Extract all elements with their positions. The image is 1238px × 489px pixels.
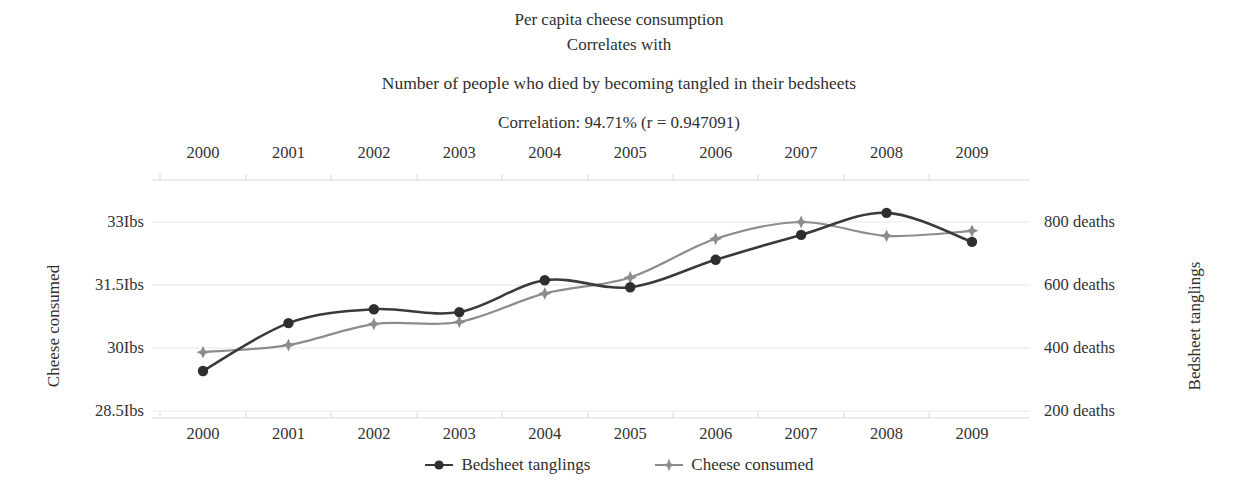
data-point[interactable] (454, 307, 464, 317)
y-tick-label-right: 800 deaths (1044, 212, 1115, 232)
data-point[interactable] (624, 271, 637, 284)
legend-item-bedsheet-tanglings[interactable]: Bedsheet tanglings (424, 455, 590, 475)
legend-label-bedsheet-tanglings: Bedsheet tanglings (461, 455, 590, 475)
y-axis-left-title: Cheese consumed (44, 236, 64, 416)
legend-label-cheese-consumed: Cheese consumed (691, 455, 813, 475)
data-point[interactable] (283, 318, 293, 328)
chart-legend: Bedsheet tanglings Cheese consumed (0, 455, 1238, 475)
x-axis-bottom-labels: 2000200120022003200420052006200720082009 (152, 424, 1030, 446)
x-tick-label: 2002 (357, 143, 390, 163)
series-line-bedsheet-tanglings (203, 213, 972, 371)
data-point[interactable] (795, 216, 808, 229)
data-point[interactable] (709, 232, 722, 245)
data-point[interactable] (538, 287, 551, 300)
y-tick-label-left: 28.5Ibs (95, 401, 144, 421)
x-tick-label: 2009 (956, 143, 989, 163)
y-tick-label-left: 33Ibs (107, 212, 144, 232)
x-tick-label: 2006 (699, 143, 732, 163)
x-tick-label: 2005 (614, 424, 647, 444)
y-tick-label-right: 600 deaths (1044, 275, 1115, 295)
filled-circle-icon (424, 457, 454, 473)
data-point[interactable] (881, 208, 891, 218)
x-tick-label: 2002 (357, 424, 390, 444)
data-point[interactable] (453, 316, 466, 329)
data-point[interactable] (966, 224, 979, 237)
x-tick-label: 2009 (956, 424, 989, 444)
series-lines (203, 213, 972, 371)
x-tick-label: 2006 (699, 424, 732, 444)
data-point[interactable] (880, 229, 893, 242)
y-axis-right-title: Bedsheet tanglings (1185, 226, 1205, 426)
y-tick-label-right: 200 deaths (1044, 401, 1115, 421)
gridlines (152, 222, 1030, 411)
x-tick-label: 2003 (443, 424, 476, 444)
legend-item-cheese-consumed[interactable]: Cheese consumed (654, 455, 813, 475)
plot-area: 2000200120022003200420052006200720082009… (0, 0, 1238, 489)
four-point-star-icon (654, 457, 684, 473)
x-axis-top-labels: 2000200120022003200420052006200720082009 (152, 143, 1030, 165)
data-point[interactable] (796, 230, 806, 240)
y-tick-label-left: 31.5Ibs (95, 275, 144, 295)
data-point[interactable] (369, 304, 379, 314)
data-point[interactable] (198, 366, 208, 376)
data-point[interactable] (967, 237, 977, 247)
top-axis-line (152, 174, 1030, 180)
x-tick-label: 2008 (870, 424, 903, 444)
data-point[interactable] (710, 255, 720, 265)
data-point[interactable] (540, 275, 550, 285)
x-tick-label: 2007 (785, 424, 818, 444)
y-tick-label-right: 400 deaths (1044, 338, 1115, 358)
data-point[interactable] (367, 318, 380, 331)
bottom-axis-line (152, 412, 1030, 418)
x-tick-label: 2000 (187, 143, 220, 163)
x-tick-label: 2004 (528, 424, 561, 444)
series-line-cheese-consumed (203, 222, 972, 352)
x-tick-label: 2001 (272, 143, 305, 163)
y-tick-label-left: 30Ibs (107, 338, 144, 358)
x-tick-label: 2001 (272, 424, 305, 444)
x-tick-label: 2003 (443, 143, 476, 163)
data-point[interactable] (625, 282, 635, 292)
x-tick-label: 2005 (614, 143, 647, 163)
x-tick-label: 2004 (528, 143, 561, 163)
data-point[interactable] (282, 339, 295, 352)
x-tick-label: 2000 (187, 424, 220, 444)
x-tick-label: 2007 (785, 143, 818, 163)
x-tick-label: 2008 (870, 143, 903, 163)
